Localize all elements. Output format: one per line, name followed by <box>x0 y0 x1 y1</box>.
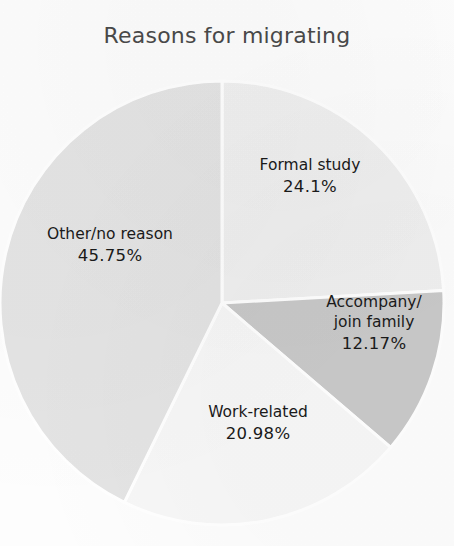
slice-label-other-name: Other/no reason <box>20 225 200 245</box>
slice-label-formal-study-name: Formal study <box>236 156 384 176</box>
pie-chart <box>0 0 454 546</box>
pie-chart-svg <box>0 0 454 546</box>
slice-label-accompany-name-line1: Accompany/ <box>300 293 448 313</box>
chart-page: Reasons for migrating Formal study 24.1%… <box>0 0 454 546</box>
slice-label-work-related-name: Work-related <box>178 403 338 423</box>
slice-label-work-related: Work-related 20.98% <box>178 403 338 444</box>
slice-label-accompany-value: 12.17% <box>300 333 448 354</box>
slice-label-accompany-join-family: Accompany/ join family 12.17% <box>300 293 448 354</box>
slice-label-formal-study: Formal study 24.1% <box>236 156 384 197</box>
slice-label-work-related-value: 20.98% <box>178 423 338 444</box>
slice-label-other-value: 45.75% <box>20 245 200 266</box>
slice-label-other-no-reason: Other/no reason 45.75% <box>20 225 200 266</box>
slice-label-formal-study-value: 24.1% <box>236 176 384 197</box>
slice-label-accompany-name-line2: join family <box>300 313 448 333</box>
